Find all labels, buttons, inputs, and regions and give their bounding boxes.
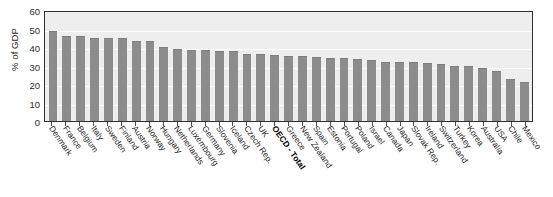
x-label-slot: Ireland	[421, 126, 435, 196]
bar-slot	[476, 12, 490, 121]
bar[interactable]	[409, 62, 418, 121]
bar[interactable]	[146, 41, 155, 121]
bar[interactable]	[520, 82, 529, 121]
bar-slot	[282, 12, 296, 121]
x-label-slot: Chile	[504, 126, 518, 196]
bar[interactable]	[326, 58, 335, 121]
x-label-slot: Slovenia	[212, 126, 226, 196]
bar[interactable]	[437, 64, 446, 121]
x-label-slot: Hungary	[156, 126, 170, 196]
bar-slot	[503, 12, 517, 121]
bar-slot	[185, 12, 199, 121]
bar[interactable]	[298, 56, 307, 121]
bar-slot	[268, 12, 282, 121]
bar-slot	[226, 12, 240, 121]
y-axis-tick-label: 30	[18, 61, 40, 72]
bar-slot	[171, 12, 185, 121]
bar[interactable]	[395, 62, 404, 121]
bar-slot	[157, 12, 171, 121]
bar[interactable]	[159, 47, 168, 121]
bar[interactable]	[62, 36, 71, 121]
bar-slot	[198, 12, 212, 121]
bar-slot	[337, 12, 351, 121]
bar-slot	[365, 12, 379, 121]
bar-slot	[420, 12, 434, 121]
x-label-slot: Israel	[365, 126, 379, 196]
bar[interactable]	[340, 58, 349, 121]
x-label-slot: Switzerland	[435, 126, 449, 196]
bar[interactable]	[243, 54, 252, 121]
bar[interactable]	[270, 55, 279, 121]
bar[interactable]	[49, 31, 58, 121]
y-axis-tick-label: 20	[18, 80, 40, 91]
x-label-slot: USA	[491, 126, 505, 196]
x-label-slot: Slovak Rep.	[407, 126, 421, 196]
bar[interactable]	[492, 71, 501, 121]
bar-slot	[517, 12, 531, 121]
x-label-slot: OECD - Total	[268, 126, 282, 196]
bar[interactable]	[450, 66, 459, 122]
bar-slot	[462, 12, 476, 121]
bar-slot	[295, 12, 309, 121]
x-label-slot: Belgium	[73, 126, 87, 196]
y-axis-tick-label: 60	[18, 6, 40, 17]
bar[interactable]	[173, 49, 182, 121]
bar-slot	[115, 12, 129, 121]
y-axis-tick-label: 50	[18, 24, 40, 35]
bar-slot	[240, 12, 254, 121]
bar[interactable]	[187, 50, 196, 121]
x-label-slot: Denmark	[45, 126, 59, 196]
bar-slot	[392, 12, 406, 121]
x-label-slot: Poland	[351, 126, 365, 196]
x-label-slot: France	[59, 126, 73, 196]
bar-slot	[60, 12, 74, 121]
bar[interactable]	[478, 68, 487, 121]
bar-slot	[74, 12, 88, 121]
x-label-slot: Sweden	[101, 126, 115, 196]
bar-slot	[129, 12, 143, 121]
bar[interactable]	[76, 36, 85, 121]
x-label-slot: Czech Rep.	[240, 126, 254, 196]
bar[interactable]	[464, 66, 473, 121]
y-axis-tick-label: 40	[18, 43, 40, 54]
bar[interactable]	[312, 57, 321, 121]
bar[interactable]	[367, 60, 376, 121]
bar[interactable]	[201, 50, 210, 121]
plot-area	[44, 11, 533, 122]
x-label-slot: Mexico	[518, 126, 532, 196]
chart-screenshot: % of GDP 0102030405060 DenmarkFranceBelg…	[0, 0, 553, 197]
x-label-slot: Canada	[379, 126, 393, 196]
x-label-slot: Turkey	[449, 126, 463, 196]
bar-slot	[212, 12, 226, 121]
bar-slot	[143, 12, 157, 121]
bar[interactable]	[256, 54, 265, 121]
bar[interactable]	[132, 41, 141, 121]
x-label-slot: UK	[254, 126, 268, 196]
bar[interactable]	[215, 51, 224, 121]
bar-slot	[254, 12, 268, 121]
x-axis-category-label: Mexico	[520, 124, 543, 151]
bar-slot	[406, 12, 420, 121]
x-label-slot: Portugal	[337, 126, 351, 196]
bar-slot	[88, 12, 102, 121]
x-label-slot: Norway	[142, 126, 156, 196]
bar[interactable]	[353, 59, 362, 121]
bar[interactable]	[118, 38, 127, 121]
bar-slot	[309, 12, 323, 121]
y-axis-tick-label: 10	[18, 98, 40, 109]
bar[interactable]	[104, 38, 113, 121]
x-label-slot: Greece	[282, 126, 296, 196]
bar[interactable]	[229, 51, 238, 121]
bar[interactable]	[284, 56, 293, 121]
x-label-slot: Japan	[393, 126, 407, 196]
x-label-slot: Korea	[463, 126, 477, 196]
bar-slot	[379, 12, 393, 121]
y-axis-tick-label: 0	[18, 117, 40, 128]
bar-slot	[46, 12, 60, 121]
bar[interactable]	[506, 79, 515, 121]
bar[interactable]	[381, 62, 390, 121]
x-label-slot: Netherlands	[170, 126, 184, 196]
bar[interactable]	[423, 63, 432, 121]
bar[interactable]	[90, 38, 99, 121]
x-label-slot: Luxembourg	[184, 126, 198, 196]
